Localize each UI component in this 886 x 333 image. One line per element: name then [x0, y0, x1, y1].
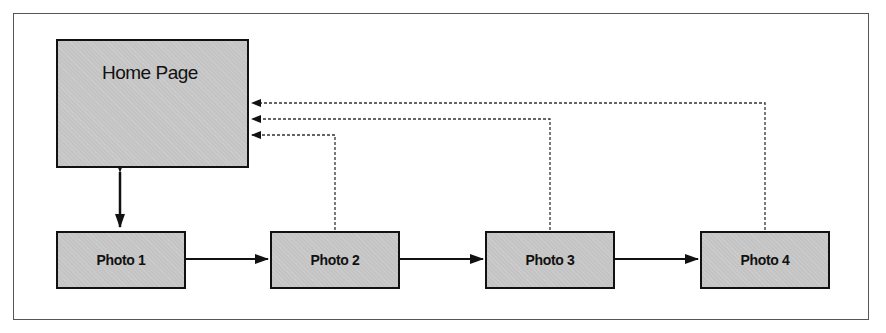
node-photo-4: Photo 4 [700, 231, 830, 289]
node-label: Home Page [102, 62, 198, 84]
node-label: Photo 4 [740, 252, 789, 268]
node-home-page: Home Page [56, 39, 249, 168]
node-label: Photo 2 [310, 252, 359, 268]
node-photo-1: Photo 1 [56, 231, 186, 289]
edge-photo2-home [252, 135, 335, 230]
node-label: Photo 3 [525, 252, 574, 268]
node-photo-2: Photo 2 [270, 231, 400, 289]
edge-photo4-home [252, 103, 765, 230]
node-photo-3: Photo 3 [485, 231, 615, 289]
node-label: Photo 1 [96, 252, 145, 268]
edge-photo3-home [252, 119, 550, 230]
